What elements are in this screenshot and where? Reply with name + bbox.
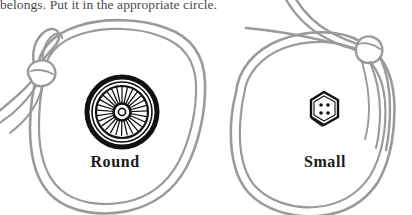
sorting-circles-illustration bbox=[0, 0, 412, 215]
button-hole-2 bbox=[326, 103, 330, 107]
button-hole-1 bbox=[319, 103, 323, 107]
spoked-wheel-icon bbox=[87, 77, 157, 147]
button-hole-3 bbox=[319, 111, 323, 115]
hexagonal-button-body bbox=[311, 92, 338, 125]
worksheet-page: belongs. Put it in the appropriate circl… bbox=[0, 0, 412, 215]
hexagonal-button-icon bbox=[311, 92, 338, 127]
sorting-circle-label-small: Small bbox=[272, 153, 378, 171]
sorting-circle-label-round: Round bbox=[62, 153, 168, 171]
yarn-tail-small-c bbox=[362, 62, 369, 139]
button-hole-4 bbox=[326, 111, 330, 115]
sorting-circle-round[interactable] bbox=[0, 20, 205, 213]
sorting-circle-small[interactable] bbox=[231, 0, 395, 215]
yarn-knot-small bbox=[356, 36, 383, 63]
